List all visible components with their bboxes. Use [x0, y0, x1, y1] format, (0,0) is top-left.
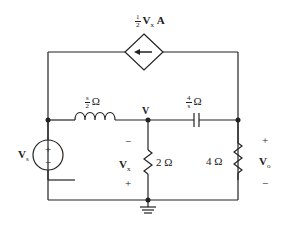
- node-dot: [236, 118, 241, 123]
- circuit-diagram: + −: [0, 0, 285, 232]
- resistor-2ohm: [144, 150, 152, 174]
- vo-bottom-sign: −: [262, 178, 268, 189]
- source-plus: +: [45, 143, 51, 155]
- source-minus: −: [45, 156, 51, 168]
- node-v-label: V: [142, 106, 149, 116]
- dependent-source-label: 12Vx A: [135, 14, 165, 29]
- vx-label: Vx: [119, 159, 130, 173]
- capacitor-label: 4sΩ: [186, 95, 202, 110]
- resistor-2-label: 2 Ω: [156, 157, 172, 168]
- vx-bottom-sign: +: [125, 178, 131, 189]
- vo-top-sign: +: [262, 135, 268, 146]
- node-dot: [146, 198, 151, 203]
- node-dot: [46, 118, 51, 123]
- resistor-4-label: 4 Ω: [206, 156, 222, 167]
- vx-top-sign: −: [125, 136, 131, 147]
- vo-label: Vo: [259, 156, 270, 170]
- node-dot: [146, 118, 151, 123]
- source-label: Vs: [18, 149, 29, 163]
- inductor: [75, 113, 115, 121]
- inductor-label: s2Ω: [85, 95, 100, 110]
